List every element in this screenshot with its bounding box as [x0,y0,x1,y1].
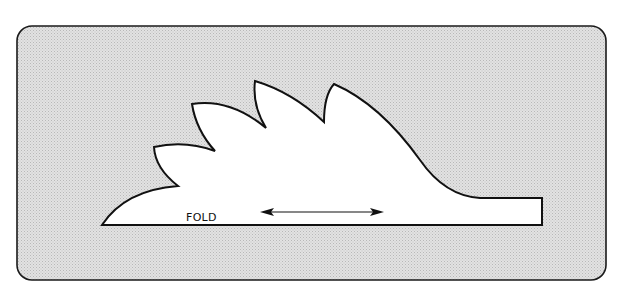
fold-label: FOLD [186,211,217,224]
pattern-diagram [0,0,624,299]
